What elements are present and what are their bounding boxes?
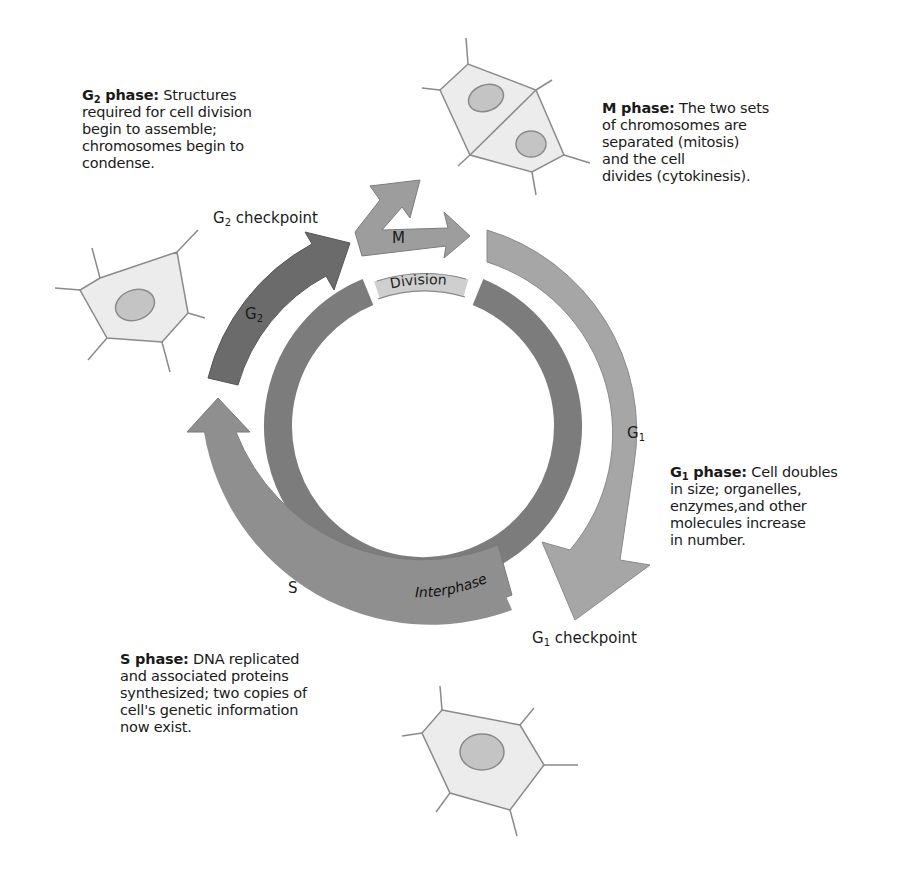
- cell-g1-illustration: [402, 686, 578, 836]
- cell-g2-illustration: [55, 230, 205, 372]
- g1-checkpoint-label: G1 checkpoint: [532, 630, 637, 647]
- s-phase-description: S phase: DNA replicated and associated p…: [120, 651, 370, 736]
- g2-phase-title: G2 phase:: [82, 87, 159, 103]
- g1-phase-title: G1 phase:: [670, 464, 747, 480]
- g2-phase-description: G2 phase: Structures required for cell d…: [82, 87, 312, 172]
- g1-phase-description: G1 phase: Cell doubles in size; organell…: [670, 464, 900, 549]
- g1-label: G1: [627, 425, 645, 442]
- s-label: S: [288, 580, 298, 597]
- g2-label: G2: [245, 306, 263, 323]
- cell-m-illustration: [422, 38, 590, 195]
- interphase-ring: [278, 292, 568, 571]
- m-label: M: [392, 230, 405, 247]
- s-phase-title: S phase:: [120, 651, 189, 667]
- m-phase-description: M phase: The two sets of chromosomes are…: [602, 100, 822, 185]
- g2-checkpoint-label: G2 checkpoint: [213, 210, 318, 227]
- m-arrow: [355, 180, 470, 258]
- m-phase-title: M phase:: [602, 100, 675, 116]
